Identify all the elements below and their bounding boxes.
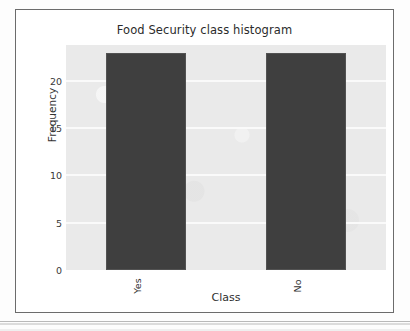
chart-title: Food Security class histogram xyxy=(16,23,393,37)
x-axis-title: Class xyxy=(66,291,386,304)
scanned-page: Food Security class histogram Frequency … xyxy=(0,0,410,331)
plot-area xyxy=(66,45,386,270)
y-axis: 05101520 xyxy=(22,45,62,270)
bar xyxy=(266,53,346,270)
y-tick-label: 0 xyxy=(28,265,62,276)
y-tick-label: 15 xyxy=(28,123,62,134)
figure-card: Food Security class histogram Frequency … xyxy=(15,9,394,313)
page-edge-shadow xyxy=(0,323,410,325)
bar xyxy=(106,53,186,270)
y-tick-label: 10 xyxy=(28,170,62,181)
y-tick-label: 20 xyxy=(28,75,62,86)
y-tick-label: 5 xyxy=(28,217,62,228)
page-edge-line xyxy=(0,321,410,322)
